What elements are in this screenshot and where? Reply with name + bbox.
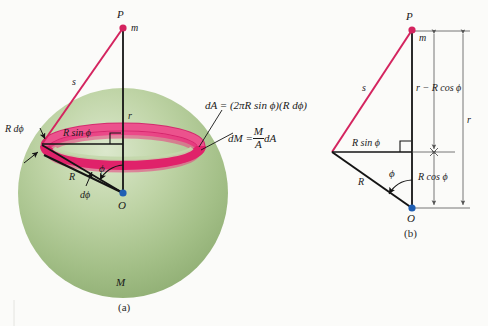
label-center-O-b: O xyxy=(407,213,415,224)
label-vertical-lower-b: R cos ϕ xyxy=(418,172,448,182)
equation-dM-numerator: M xyxy=(253,126,264,138)
equation-dM-denominator: A xyxy=(253,138,264,151)
label-point-P-a: P xyxy=(117,9,124,20)
label-center-O-a: O xyxy=(118,200,126,211)
point-O-dot-b xyxy=(408,204,415,211)
caption-panel-b: (b) xyxy=(404,228,417,239)
line-s-b xyxy=(332,30,412,152)
label-mass-m-a: m xyxy=(131,23,138,33)
label-angle-phi-b: ϕ xyxy=(389,168,395,179)
angle-arc-phi-b xyxy=(389,180,412,194)
label-distance-s-b: s xyxy=(362,83,366,93)
radius-R-b xyxy=(332,152,412,208)
label-sphere-mass-M: M xyxy=(116,277,125,288)
label-horizontal-leg-b: R sin ϕ xyxy=(352,138,380,148)
label-angle-dphi: dϕ xyxy=(80,190,90,200)
figure-vector-canvas xyxy=(0,0,488,326)
caption-panel-a: (a) xyxy=(118,302,130,313)
label-radius-R-b: R xyxy=(358,177,364,187)
equation-dM: dM =MAdA xyxy=(228,127,276,151)
equation-dM-lhs: dM = xyxy=(228,132,253,144)
label-distance-r-a: r xyxy=(128,111,132,121)
label-point-P-b: P xyxy=(406,11,413,22)
point-P-dot-a xyxy=(119,24,126,31)
label-vertical-upper-b: r − R cos ϕ xyxy=(416,83,461,93)
label-radius-R-a: R xyxy=(69,172,75,182)
point-O-dot-a xyxy=(119,189,126,196)
physics-figure-gravitational-shell: P m s r R dϕ R sin ϕ R ϕ dϕ O M (a) dA =… xyxy=(0,0,488,326)
equation-dA: dA = (2πR sin ϕ)(R dϕ) xyxy=(205,100,307,111)
label-distance-r-b: r xyxy=(467,115,471,125)
label-mass-m-b: m xyxy=(419,33,426,43)
point-P-dot-b xyxy=(408,26,415,33)
label-ring-radius: R sin ϕ xyxy=(63,128,91,138)
right-angle-marker-b xyxy=(400,141,411,152)
equation-dM-rhs: dA xyxy=(264,132,276,144)
equation-dM-fraction: MA xyxy=(253,126,264,150)
label-distance-s-a: s xyxy=(72,77,76,87)
label-ring-width: R dϕ xyxy=(5,124,24,134)
label-angle-phi-a: ϕ xyxy=(99,163,105,174)
